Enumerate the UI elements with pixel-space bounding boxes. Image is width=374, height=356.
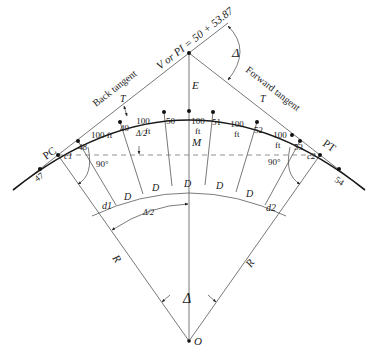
station-54: 54 — [333, 174, 347, 188]
station-47: 47 — [32, 170, 46, 184]
station-53: 53 — [294, 142, 304, 152]
half-delta-label: Δ/2 — [142, 208, 154, 217]
right-angle-arc-right — [288, 147, 300, 184]
forward-tangent-label: Forward tangent — [244, 64, 303, 113]
station-50: 50 — [166, 116, 176, 126]
radius-right-label: R — [242, 257, 256, 270]
radius-pc — [58, 155, 189, 341]
c2-label: c2 — [307, 151, 316, 161]
radius-left-label: R — [110, 251, 124, 264]
external-label: E — [191, 79, 199, 91]
d2-label: d2 — [266, 202, 276, 213]
tangent-T-right: T — [260, 93, 267, 104]
pt-label: PT — [321, 137, 339, 154]
delta-top-label: Δ — [231, 45, 240, 60]
chord-50-51: 100 — [191, 116, 205, 126]
delta-arc-left — [162, 295, 170, 302]
c1-label: c1 — [64, 151, 73, 161]
d-label-5: D — [245, 188, 254, 199]
chord-49-50: 100 — [136, 116, 150, 126]
half-delta-top-label: Δ/2 — [135, 129, 147, 138]
radius-pt — [189, 155, 320, 341]
middle-ordinate-label: M — [191, 136, 202, 148]
d-label-3: D — [183, 178, 192, 189]
chord-48-49: 100 ft — [91, 130, 113, 140]
d-label-1: D — [123, 191, 132, 202]
d-label-2: D — [151, 182, 160, 193]
pc-label: PC — [40, 144, 58, 162]
chord-51-52-ft: ft — [234, 129, 240, 139]
back-tangent-label: Back tangent — [90, 67, 138, 108]
t-offset-tick — [124, 106, 127, 116]
delta-arc-right — [208, 295, 216, 302]
station-48: 48 — [78, 142, 88, 152]
d1-label: d1 — [102, 200, 112, 211]
right-angle-arc-left — [78, 147, 90, 184]
right-angle-right: 90° — [268, 157, 281, 167]
chord-51-52: 100 — [230, 119, 244, 129]
vertex-label: V or PI = 50 + 53.87 — [154, 4, 236, 72]
right-angle-left: 90° — [96, 159, 109, 169]
chord-52-53: 100 — [273, 130, 287, 140]
d-label-4: D — [215, 180, 224, 191]
curve-diagram: V or PI = 50 + 53.87 Δ Back tangent Forw… — [0, 0, 374, 356]
station-52: 52 — [254, 125, 263, 135]
chord-52-53-ft: ft — [275, 140, 281, 150]
center-O-label: O — [194, 335, 202, 347]
station-51: 51 — [212, 117, 221, 127]
chord-50-51-ft: ft — [195, 126, 201, 136]
station-49: 49 — [120, 123, 130, 133]
delta-center-label: Δ — [182, 291, 191, 306]
